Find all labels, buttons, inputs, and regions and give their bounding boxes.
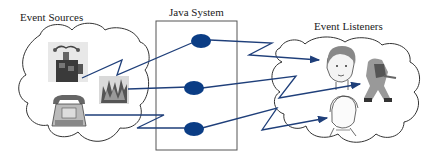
fire-icon (99, 76, 129, 104)
woman-face-icon (330, 96, 358, 136)
handler-1-node (191, 34, 211, 48)
jack-in-the-box-icon (48, 42, 88, 82)
connection-jack-to-handler-1 (82, 42, 194, 78)
boy-face-icon (327, 46, 356, 90)
connection-fire-to-handler-2 (128, 87, 188, 89)
handler-3-node (184, 122, 204, 136)
firefighter-icon (364, 58, 396, 102)
event-model-diagram (0, 0, 438, 160)
connection-telephone-to-handler-3 (85, 115, 188, 128)
connection-handler-3-to-woman (202, 108, 327, 130)
handler-2-node (184, 81, 204, 95)
connection-handler-1-to-boy (210, 40, 319, 60)
telephone-icon (52, 95, 86, 126)
